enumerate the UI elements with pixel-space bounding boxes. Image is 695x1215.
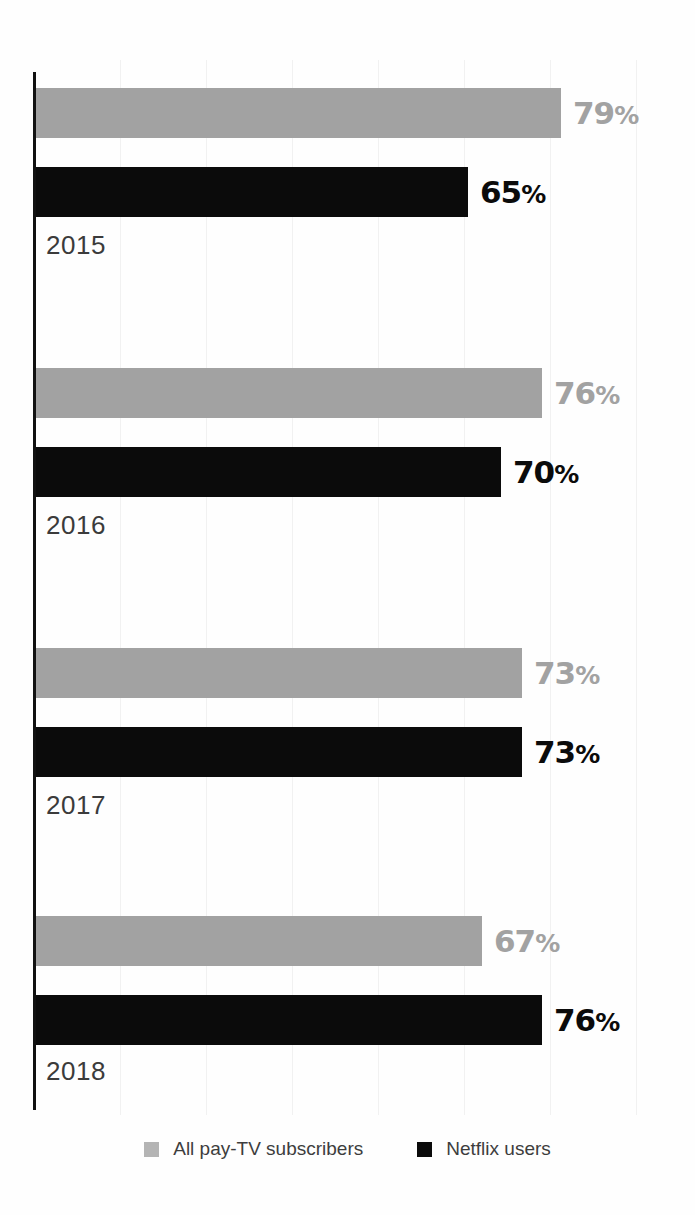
bar-row-netflix-2015: 65% (36, 167, 468, 217)
bar-value-netflix-2016: 70% (513, 454, 578, 490)
bar-row-pay-tv-2015: 79% (36, 88, 561, 138)
bar-group-2018: 67% 76% 2018 (0, 828, 695, 1088)
bar-value-number: 76 (554, 1002, 595, 1038)
percent-sign: % (554, 460, 578, 489)
chart-legend: All pay-TV subscribers Netflix users (0, 1138, 695, 1160)
bar-pay-tv-2016 (36, 368, 542, 418)
percent-sign: % (521, 180, 545, 209)
bar-value-pay-tv-2018: 67% (494, 923, 559, 959)
bar-row-pay-tv-2017: 73% (36, 648, 522, 698)
bar-value-number: 73 (534, 734, 575, 770)
bar-value-pay-tv-2015: 79% (573, 95, 638, 131)
bar-value-number: 65 (480, 174, 521, 210)
bar-netflix-2015 (36, 167, 468, 217)
legend-swatch-icon (144, 1142, 159, 1157)
year-label-2018: 2018 (46, 1056, 106, 1087)
year-label-2016: 2016 (46, 510, 106, 541)
bar-value-number: 73 (534, 655, 575, 691)
bar-group-2017: 73% 73% 2017 (0, 560, 695, 820)
percent-sign: % (575, 740, 599, 769)
bar-value-number: 67 (494, 923, 535, 959)
bar-pay-tv-2018 (36, 916, 482, 966)
bar-chart: 79% 65% 2015 76% 70% (0, 0, 695, 1215)
legend-item-netflix[interactable]: Netflix users (417, 1138, 551, 1160)
bar-netflix-2017 (36, 727, 522, 777)
bar-row-netflix-2018: 76% (36, 995, 542, 1045)
legend-item-pay-tv[interactable]: All pay-TV subscribers (144, 1138, 363, 1160)
bar-netflix-2018 (36, 995, 542, 1045)
bar-pay-tv-2017 (36, 648, 522, 698)
legend-swatch-icon (417, 1142, 432, 1157)
bar-group-2016: 76% 70% 2016 (0, 280, 695, 540)
bar-value-netflix-2018: 76% (554, 1002, 619, 1038)
bar-group-2015: 79% 65% 2015 (0, 0, 695, 260)
bar-value-netflix-2015: 65% (480, 174, 545, 210)
bar-netflix-2016 (36, 447, 501, 497)
plot-area: 79% 65% 2015 76% 70% (0, 0, 695, 1120)
bar-row-netflix-2017: 73% (36, 727, 522, 777)
year-label-2015: 2015 (46, 230, 106, 261)
bar-value-number: 79 (573, 95, 614, 131)
bar-row-pay-tv-2016: 76% (36, 368, 542, 418)
bar-row-pay-tv-2018: 67% (36, 916, 482, 966)
legend-label-pay-tv: All pay-TV subscribers (173, 1138, 363, 1160)
percent-sign: % (595, 1008, 619, 1037)
percent-sign: % (575, 661, 599, 690)
year-label-2017: 2017 (46, 790, 106, 821)
percent-sign: % (595, 381, 619, 410)
bar-row-netflix-2016: 70% (36, 447, 501, 497)
percent-sign: % (614, 101, 638, 130)
bar-value-number: 70 (513, 454, 554, 490)
bar-pay-tv-2015 (36, 88, 561, 138)
bar-value-pay-tv-2016: 76% (554, 375, 619, 411)
bar-value-netflix-2017: 73% (534, 734, 599, 770)
bar-value-pay-tv-2017: 73% (534, 655, 599, 691)
percent-sign: % (535, 929, 559, 958)
legend-label-netflix: Netflix users (446, 1138, 551, 1160)
bar-value-number: 76 (554, 375, 595, 411)
